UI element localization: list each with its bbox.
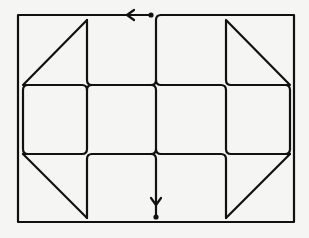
mid-left-center-link: [87, 85, 92, 90]
mid-center-left-link: [87, 154, 92, 218]
mid-left-inner: [23, 85, 82, 154]
diagram-canvas: Line-path puzzle diagram: [0, 0, 309, 238]
bottom-right-link: [161, 154, 226, 218]
mid-right-bracket: [161, 85, 290, 154]
center-cross-right: [156, 80, 161, 85]
bottom-center-path: [92, 154, 156, 217]
mid-right-inner: [231, 85, 290, 154]
triangle-top-left: [23, 20, 87, 85]
triangle-bottom-right: [226, 154, 290, 218]
triangle-top-right: [226, 20, 290, 85]
center-cross-top: [151, 85, 156, 154]
center-vertical-path-top: [87, 15, 161, 85]
triangle-bottom-left: [23, 154, 87, 218]
mid-left-bracket: [23, 85, 87, 154]
